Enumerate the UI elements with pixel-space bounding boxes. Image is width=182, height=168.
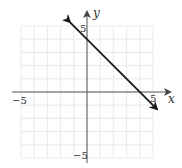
coordinate-plane: x y −5 5 5 −5 xyxy=(0,0,182,168)
y-tick-pos5: 5 xyxy=(80,23,86,34)
y-axis-label: y xyxy=(92,6,100,20)
y-tick-neg5: −5 xyxy=(73,150,88,161)
x-tick-pos5: 5 xyxy=(150,93,156,104)
x-axis-label: x xyxy=(168,92,175,106)
x-tick-neg5: −5 xyxy=(12,95,27,106)
